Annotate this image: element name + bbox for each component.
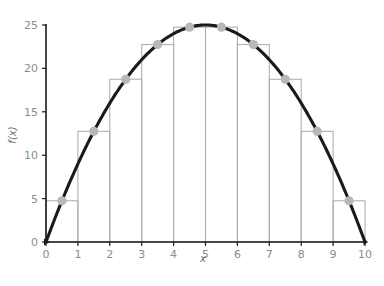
y-tick-label: 25 (24, 19, 38, 32)
y-axis-label: f(x) (7, 126, 18, 143)
riemann-sum-chart: 012345678910 0510152025 x f(x) (0, 0, 384, 286)
midpoint-marker (344, 196, 353, 205)
y-tick-label: 5 (31, 193, 38, 206)
y-tick-label: 20 (24, 62, 38, 75)
midpoint-marker (313, 127, 322, 136)
midpoint-marker (185, 23, 194, 32)
y-tick-label: 15 (24, 106, 38, 119)
x-tick-label: 2 (106, 248, 113, 261)
midpoint-marker (281, 75, 290, 84)
x-tick-label: 3 (138, 248, 145, 261)
midpoint-marker (89, 127, 98, 136)
midpoint-marker (121, 75, 130, 84)
midpoint-marker (217, 23, 226, 32)
x-tick-label: 8 (298, 248, 305, 261)
chart-figure: 012345678910 0510152025 x f(x) (0, 0, 384, 286)
x-tick-label: 6 (234, 248, 241, 261)
midpoint-marker (249, 40, 258, 49)
x-tick-label: 4 (170, 248, 177, 261)
midpoint-marker (153, 40, 162, 49)
y-tick-label: 0 (31, 236, 38, 249)
chart-background (0, 0, 384, 286)
x-tick-label: 7 (266, 248, 273, 261)
x-tick-label: 10 (358, 248, 372, 261)
x-tick-label: 0 (43, 248, 50, 261)
x-tick-label: 1 (74, 248, 81, 261)
midpoint-marker (57, 196, 66, 205)
x-tick-label: 9 (330, 248, 337, 261)
x-axis-label: x (199, 253, 206, 264)
y-tick-label: 10 (24, 149, 38, 162)
